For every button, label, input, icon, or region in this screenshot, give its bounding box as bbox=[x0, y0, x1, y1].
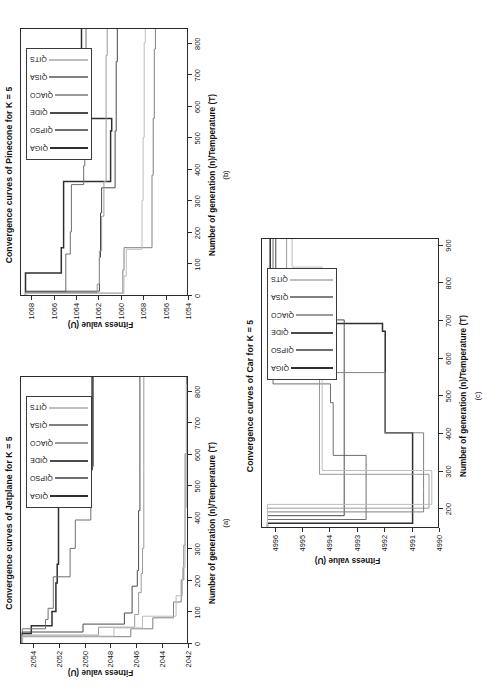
x-tick-mark bbox=[439, 282, 443, 283]
legend-label: QIPSO bbox=[271, 347, 294, 354]
x-tick-mark bbox=[188, 548, 192, 549]
panel-c-caption: (c) bbox=[473, 216, 482, 576]
panel-b-legend: QIGAQIPSOQIDEQIACOQISAQITS bbox=[26, 48, 92, 160]
y-tick-mark bbox=[162, 644, 163, 648]
legend-label: QIDE bbox=[271, 329, 289, 336]
legend-color-swatch bbox=[55, 94, 88, 96]
legend-item-qide: QIDE bbox=[30, 452, 88, 470]
y-tick-label: 2054 bbox=[28, 651, 37, 688]
panel-a-legend: QIGAQIPSOQIDEQIACOQISAQITS bbox=[26, 396, 92, 508]
legend-label: QIACO bbox=[30, 92, 53, 99]
x-tick-label: 400 bbox=[193, 164, 202, 176]
y-tick-mark bbox=[275, 528, 276, 532]
legend-label: QIGA bbox=[30, 145, 48, 152]
y-tick-label: 4991 bbox=[407, 535, 416, 576]
panel-a-title: Convergence curves of Jetplane for K = 5 bbox=[4, 358, 14, 688]
panel-c-title: Convergence curves of Car for K = 5 bbox=[245, 216, 255, 576]
legend-item-qiga: QIGA bbox=[30, 139, 88, 157]
y-tick-mark bbox=[439, 528, 440, 532]
y-tick-label: 1054 bbox=[184, 303, 193, 340]
legend-color-swatch bbox=[290, 279, 333, 281]
x-tick-label: 700 bbox=[444, 315, 453, 327]
legend-label: QIDE bbox=[30, 457, 48, 464]
y-tick-mark bbox=[33, 644, 34, 648]
legend-label: QITS bbox=[30, 56, 47, 63]
legend-color-swatch bbox=[49, 407, 88, 409]
panel-car: Convergence curves of Car for K = 5 2003… bbox=[245, 216, 490, 576]
x-tick-label: 200 bbox=[444, 503, 453, 515]
x-tick-mark bbox=[188, 43, 192, 44]
x-tick-mark bbox=[188, 106, 192, 107]
panel-b-title: Convergence curves of Pinecone for K = 5 bbox=[4, 10, 14, 340]
legend-label: QITS bbox=[30, 404, 47, 411]
legend-item-qipso: QIPSO bbox=[271, 342, 333, 360]
legend-item-qiga: QIGA bbox=[271, 359, 333, 377]
legend-item-qide: QIDE bbox=[30, 104, 88, 122]
y-tick-mark bbox=[85, 644, 86, 648]
legend-label: QITS bbox=[271, 276, 288, 283]
y-tick-mark bbox=[384, 528, 385, 532]
legend-color-swatch bbox=[55, 130, 88, 132]
x-tick-mark bbox=[439, 245, 443, 246]
legend-color-swatch bbox=[50, 112, 88, 114]
legend-item-qiaco: QIACO bbox=[30, 86, 88, 104]
x-tick-mark bbox=[188, 422, 192, 423]
y-tick-label: 2042 bbox=[184, 651, 193, 688]
legend-item-qide: QIDE bbox=[271, 324, 333, 342]
y-tick-mark bbox=[98, 296, 99, 300]
legend-label: QIDE bbox=[30, 109, 48, 116]
x-tick-mark bbox=[439, 433, 443, 434]
y-tick-mark bbox=[302, 528, 303, 532]
legend-label: QIACO bbox=[30, 440, 53, 447]
legend-item-qisa: QISA bbox=[30, 69, 88, 87]
legend-color-swatch bbox=[291, 332, 333, 334]
legend-color-swatch bbox=[50, 460, 88, 462]
legend-color-swatch bbox=[50, 495, 88, 497]
x-tick-mark bbox=[188, 169, 192, 170]
legend-label: QISA bbox=[271, 294, 288, 301]
x-tick-mark bbox=[188, 611, 192, 612]
x-tick-label: 400 bbox=[444, 428, 453, 440]
y-tick-mark bbox=[76, 296, 77, 300]
panel-pinecone: Convergence curves of Pinecone for K = 5… bbox=[4, 10, 236, 340]
legend-label: QISA bbox=[30, 74, 47, 81]
x-tick-mark bbox=[188, 232, 192, 233]
legend-item-qiga: QIGA bbox=[30, 487, 88, 505]
legend-color-swatch bbox=[291, 367, 333, 369]
x-tick-label: 600 bbox=[193, 449, 202, 461]
legend-color-swatch bbox=[290, 296, 333, 298]
y-tick-mark bbox=[110, 644, 111, 648]
panel-c-xaxis-label: Number of generation (n)/Temperature (T) bbox=[459, 216, 468, 576]
y-tick-mark bbox=[166, 296, 167, 300]
panel-jetplane: Convergence curves of Jetplane for K = 5… bbox=[4, 358, 236, 688]
legend-label: QIPSO bbox=[30, 127, 53, 134]
x-tick-mark bbox=[188, 485, 192, 486]
y-tick-label: 1068 bbox=[27, 303, 36, 340]
x-tick-label: 100 bbox=[193, 258, 202, 270]
legend-color-swatch bbox=[296, 314, 333, 316]
panel-c-yaxis-label: Fitness value (U) bbox=[288, 556, 408, 565]
x-tick-mark bbox=[188, 391, 192, 392]
y-tick-mark bbox=[412, 528, 413, 532]
panel-c-legend: QIGAQIPSOQIDEQIACOQISAQITS bbox=[267, 268, 337, 380]
x-tick-mark bbox=[439, 508, 443, 509]
y-tick-mark bbox=[31, 296, 32, 300]
y-tick-label: 1056 bbox=[161, 303, 170, 340]
x-tick-label: 900 bbox=[444, 239, 453, 251]
x-tick-mark bbox=[188, 200, 192, 201]
y-tick-mark bbox=[357, 528, 358, 532]
x-tick-label: 0 bbox=[193, 642, 202, 646]
legend-label: QISA bbox=[30, 422, 47, 429]
x-tick-label: 300 bbox=[444, 465, 453, 477]
x-tick-mark bbox=[439, 471, 443, 472]
panel-a-yaxis-label: Fitness value (U) bbox=[41, 668, 161, 677]
y-tick-mark bbox=[121, 296, 122, 300]
y-tick-mark bbox=[143, 296, 144, 300]
legend-item-qits: QITS bbox=[271, 271, 333, 289]
x-tick-mark bbox=[188, 517, 192, 518]
y-tick-mark bbox=[59, 644, 60, 648]
panel-b-xaxis-label: Number of generation (n)/Temperature (T) bbox=[208, 10, 217, 340]
legend-color-swatch bbox=[49, 59, 88, 61]
x-tick-mark bbox=[188, 137, 192, 138]
x-tick-mark bbox=[188, 263, 192, 264]
